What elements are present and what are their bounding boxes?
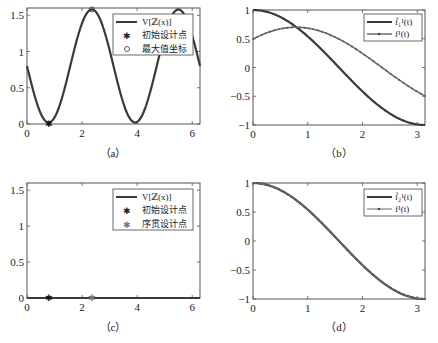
legend-label-c-2: 序贯设计点 bbox=[142, 218, 187, 229]
dot-marker-icon bbox=[378, 33, 380, 35]
y-tick-label: −0.5 bbox=[230, 264, 250, 276]
y-tick-label: 0.5 bbox=[236, 33, 250, 45]
star-marker-icon: ✱ bbox=[123, 31, 131, 41]
legend-label-c-1: 初始设计点 bbox=[142, 204, 187, 215]
y-tick-label: 1 bbox=[19, 46, 25, 58]
x-tick-label: 0 bbox=[250, 128, 256, 140]
star-marker-light-icon: ✱ bbox=[123, 220, 131, 230]
legend-label-d-1: f¹(t) bbox=[395, 204, 409, 214]
y-tick-label: 1 bbox=[245, 4, 251, 16]
y-tick-label: 0.5 bbox=[10, 82, 24, 94]
caption-d: （d） bbox=[325, 321, 353, 333]
caption-a: （a） bbox=[100, 147, 127, 159]
y-tick-label: 1.5 bbox=[10, 184, 24, 196]
caption-b: （b） bbox=[325, 147, 353, 159]
y-tick-label: 0.5 bbox=[10, 256, 24, 268]
legend-label-a-2: 最大值坐标 bbox=[142, 43, 187, 54]
y-tick-label: −1 bbox=[238, 119, 250, 131]
y-tick-label: 0.5 bbox=[236, 206, 250, 218]
y-tick-label: 0 bbox=[245, 235, 251, 247]
panel-b: 0123−1−0.500.51 f̃₁¹(t) f¹(t) （b） bbox=[230, 4, 426, 159]
y-tick-label: 1 bbox=[19, 220, 25, 232]
legend-label-b-1: f¹(t) bbox=[395, 29, 409, 39]
x-tick-label: 2 bbox=[360, 128, 366, 140]
dot-marker-icon bbox=[378, 208, 380, 210]
figure-canvas: 024600.511.5✱ V[ℤ(x)] ✱ 初始设计点 最大值坐标 （a） … bbox=[0, 0, 438, 343]
x-tick-label: 1 bbox=[305, 128, 311, 140]
legend-label-c-0: V[ℤ(x)] bbox=[142, 192, 172, 202]
panel-d: 0123−1−0.500.51 f̃₂¹(t) f¹(t) （d） bbox=[230, 177, 426, 333]
legend-label-b-0: f̃₁¹(t) bbox=[395, 17, 412, 27]
panel-c: 024600.511.5✱✱ V[ℤ(x)] ✱ 初始设计点 ✱ 序贯设计点 （… bbox=[10, 183, 200, 333]
x-tick-label: 2 bbox=[79, 127, 85, 139]
x-tick-label: 1 bbox=[305, 302, 311, 314]
y-tick-label: 1.5 bbox=[10, 9, 24, 21]
star-marker-icon: ✱ bbox=[45, 293, 53, 303]
x-tick-label: 2 bbox=[79, 301, 85, 313]
caption-c: （c） bbox=[100, 321, 127, 333]
x-tick-label: 6 bbox=[189, 301, 195, 313]
legend-a: V[ℤ(x)] ✱ 初始设计点 最大值坐标 bbox=[113, 14, 193, 55]
y-tick-label: 1 bbox=[245, 177, 251, 189]
x-tick-label: 2 bbox=[360, 302, 366, 314]
star-marker-icon: ✱ bbox=[45, 119, 53, 129]
y-tick-label: 0 bbox=[245, 62, 251, 74]
legend-label-d-0: f̃₂¹(t) bbox=[395, 192, 412, 202]
legend-c: V[ℤ(x)] ✱ 初始设计点 ✱ 序贯设计点 bbox=[113, 189, 193, 230]
y-tick-label: 0 bbox=[19, 292, 25, 304]
y-tick-label: −1 bbox=[238, 293, 250, 305]
x-tick-label: 3 bbox=[414, 128, 420, 140]
x-tick-label: 4 bbox=[134, 127, 140, 139]
x-tick-label: 3 bbox=[414, 302, 420, 314]
star-marker-icon: ✱ bbox=[88, 293, 96, 303]
y-tick-label: 0 bbox=[19, 118, 25, 130]
legend-b: f̃₁¹(t) f¹(t) bbox=[364, 14, 422, 41]
legend-label-a-1: 初始设计点 bbox=[142, 29, 187, 40]
x-tick-label: 4 bbox=[134, 301, 140, 313]
legend-d: f̃₂¹(t) f¹(t) bbox=[364, 189, 422, 216]
star-marker-icon: ✱ bbox=[123, 206, 131, 216]
y-tick-label: −0.5 bbox=[230, 90, 250, 102]
x-tick-label: 0 bbox=[250, 302, 256, 314]
x-tick-label: 0 bbox=[24, 301, 30, 313]
panel-a: 024600.511.5✱ V[ℤ(x)] ✱ 初始设计点 最大值坐标 （a） bbox=[10, 7, 200, 159]
x-tick-label: 0 bbox=[24, 127, 30, 139]
x-tick-label: 6 bbox=[189, 127, 195, 139]
legend-label-a-0: V[ℤ(x)] bbox=[142, 17, 172, 27]
